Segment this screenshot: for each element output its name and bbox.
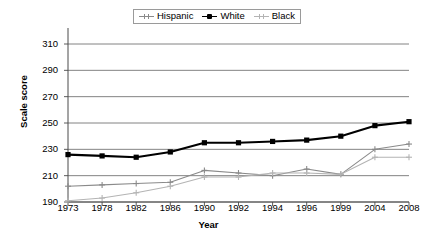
gridlines [64, 44, 409, 202]
y-tick-250: 250 [28, 118, 58, 128]
y-tick-270: 270 [28, 92, 58, 102]
series-black [65, 154, 412, 203]
y-tick-210: 210 [28, 171, 58, 181]
y-tick-230: 230 [28, 144, 58, 154]
data-series-layer [65, 119, 412, 204]
series-white [65, 119, 411, 160]
y-tick-290: 290 [28, 65, 58, 75]
y-tick-310: 310 [28, 39, 58, 49]
x-tick-2008: 2008 [389, 203, 424, 213]
